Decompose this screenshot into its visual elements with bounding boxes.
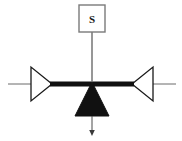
source-block-label: S — [89, 13, 95, 25]
left-amplifier-triangle — [31, 67, 52, 101]
downward-arrow-icon — [89, 130, 95, 136]
schematic-canvas: S — [0, 0, 182, 141]
schematic-diagram: S — [0, 0, 182, 141]
pivot-triangle — [75, 82, 109, 116]
right-amplifier-triangle — [132, 67, 153, 101]
